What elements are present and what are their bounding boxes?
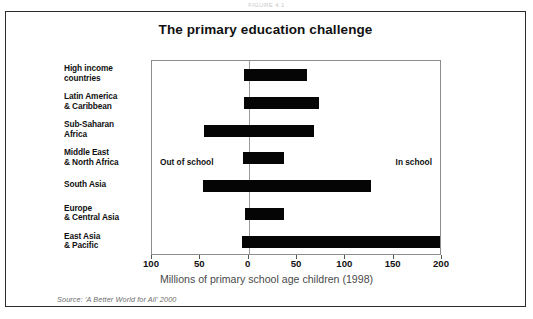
category-label-line2: Africa <box>64 130 150 140</box>
bar-row <box>152 117 440 145</box>
category-label-line1: South Asia <box>64 179 106 189</box>
category-label: East Asia& Pacific <box>64 232 150 251</box>
category-label: High incomecountries <box>64 64 150 83</box>
page-header-stub: FIGURE 4.1 <box>0 0 533 10</box>
category-label: Europe& Central Asia <box>64 204 150 223</box>
source-note: Source: 'A Better World for All' 2000 <box>57 295 177 304</box>
bar <box>244 97 319 109</box>
category-label-line2: & North Africa <box>64 158 150 168</box>
bar <box>245 208 285 220</box>
category-label: Sub-SaharanAfrica <box>64 120 150 139</box>
x-axis-title: Millions of primary school age children … <box>6 273 527 285</box>
category-label-line1: Middle East <box>64 147 109 157</box>
x-tick-label: 200 <box>411 258 471 269</box>
category-label-line2: & Central Asia <box>64 213 150 223</box>
category-label-line1: East Asia <box>64 231 100 241</box>
bar <box>242 236 440 248</box>
x-axis-tick-labels: 10050050100150200 <box>121 258 471 272</box>
bar <box>243 152 285 164</box>
annotation-in-school: In school <box>396 157 432 167</box>
figure-container: The primary education challenge High inc… <box>5 11 526 307</box>
category-label: South Asia <box>64 180 150 190</box>
category-label-line1: Europe <box>64 203 92 213</box>
chart-title: The primary education challenge <box>6 22 525 37</box>
category-label: Middle East& North Africa <box>64 148 150 167</box>
category-label-line1: Sub-Saharan <box>64 119 114 129</box>
bar-row <box>152 228 440 256</box>
annotation-out-of-school: Out of school <box>160 157 213 167</box>
bar-row <box>152 200 440 228</box>
plot-area: Out of school In school <box>151 60 441 255</box>
bar-row <box>152 89 440 117</box>
category-label-line2: & Caribbean <box>64 102 150 112</box>
bar <box>204 125 314 137</box>
category-label-line2: & Pacific <box>64 241 150 251</box>
category-label-line1: High income <box>64 63 113 73</box>
bar-row <box>152 61 440 89</box>
category-label-line2: countries <box>64 74 150 84</box>
category-label: Latin America& Caribbean <box>64 92 150 111</box>
bar-row <box>152 172 440 200</box>
bar <box>244 69 307 81</box>
category-axis-labels: High incomecountriesLatin America& Carib… <box>64 60 150 250</box>
bar <box>203 180 371 192</box>
category-label-line1: Latin America <box>64 91 117 101</box>
